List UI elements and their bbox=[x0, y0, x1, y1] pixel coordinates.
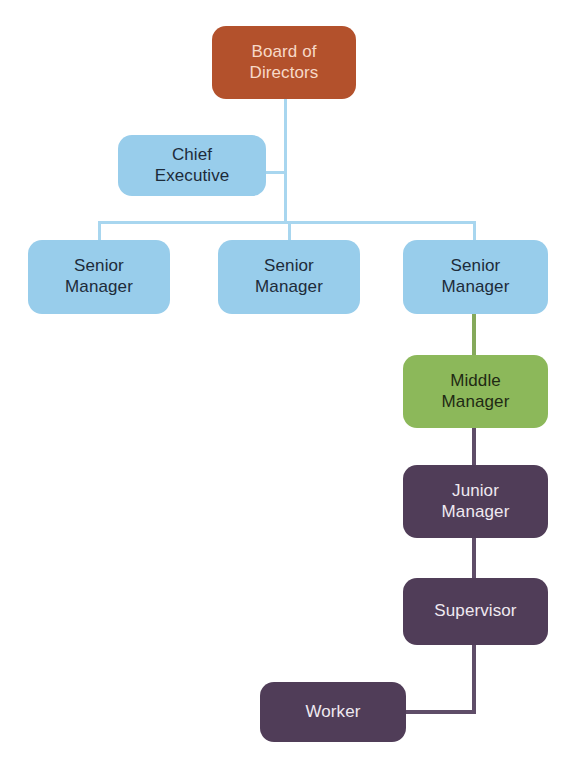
node-label-supervisor: Supervisor bbox=[434, 601, 516, 622]
connector-junior-manager-to-supervisor bbox=[472, 534, 476, 583]
connector-senior-manager-3-to-middle-manager bbox=[472, 310, 476, 360]
org-chart-canvas: Board of Directors Chief Executive Senio… bbox=[0, 0, 576, 779]
node-junior-manager[interactable]: Junior Manager bbox=[403, 465, 548, 538]
connector-board-to-distribution-bar bbox=[284, 96, 287, 224]
node-chief-executive[interactable]: Chief Executive bbox=[118, 135, 266, 196]
connector-middle-manager-to-junior-manager bbox=[472, 424, 476, 470]
node-label-senior-manager-3: Senior Manager bbox=[442, 256, 510, 297]
node-senior-manager-1[interactable]: Senior Manager bbox=[28, 240, 170, 314]
node-label-chief-executive: Chief Executive bbox=[155, 145, 230, 186]
node-label-senior-manager-2: Senior Manager bbox=[255, 256, 323, 297]
node-label-board-of-directors: Board of Directors bbox=[250, 42, 319, 83]
node-senior-manager-2[interactable]: Senior Manager bbox=[218, 240, 360, 314]
node-supervisor[interactable]: Supervisor bbox=[403, 578, 548, 645]
connector-supervisor-to-worker-horizontal bbox=[402, 710, 476, 714]
node-label-senior-manager-1: Senior Manager bbox=[65, 256, 133, 297]
node-board-of-directors[interactable]: Board of Directors bbox=[212, 26, 356, 99]
node-senior-manager-3[interactable]: Senior Manager bbox=[403, 240, 548, 314]
node-middle-manager[interactable]: Middle Manager bbox=[403, 355, 548, 428]
connector-distribution-bar bbox=[98, 221, 476, 224]
node-label-middle-manager: Middle Manager bbox=[442, 371, 510, 412]
connector-supervisor-to-worker-vertical bbox=[472, 641, 476, 714]
node-label-worker: Worker bbox=[305, 702, 360, 723]
node-worker[interactable]: Worker bbox=[260, 682, 406, 742]
node-label-junior-manager: Junior Manager bbox=[442, 481, 510, 522]
